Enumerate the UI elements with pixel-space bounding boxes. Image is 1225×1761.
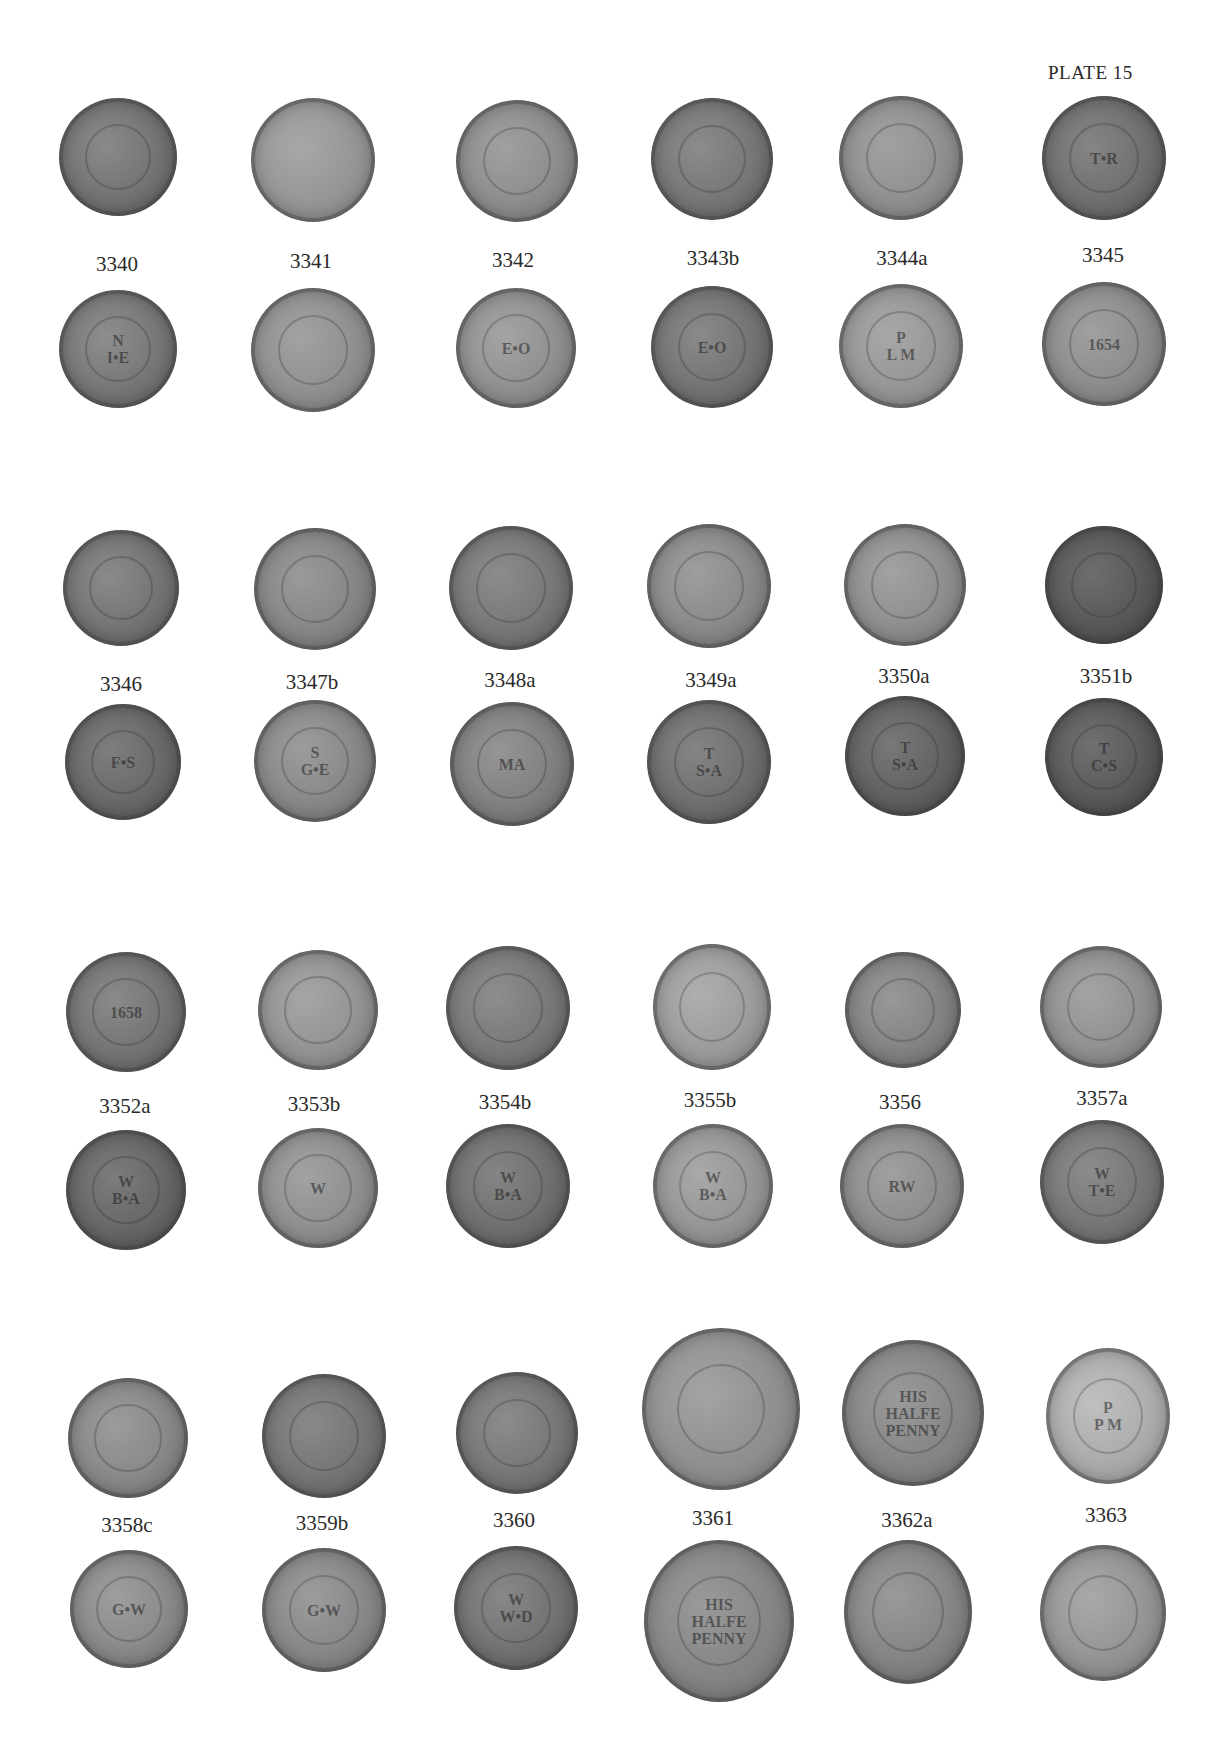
- coin-3354b-obverse: [446, 946, 570, 1070]
- coin-3349a-obverse: [647, 524, 771, 648]
- coin-3341-obverse: [251, 98, 375, 222]
- coin-3359b-obverse: [262, 1374, 386, 1498]
- coin-3352a-reverse: W B•A: [66, 1130, 186, 1250]
- coin-3355b-obverse: [653, 944, 771, 1070]
- catalog-number: 3355b: [684, 1088, 737, 1113]
- catalog-number: 3351b: [1080, 664, 1133, 689]
- coin-3348a-reverse: MA: [450, 702, 574, 826]
- catalog-number: 3358c: [101, 1513, 152, 1538]
- coin-3341-reverse: [251, 288, 375, 412]
- catalog-number: 3356: [879, 1090, 921, 1115]
- catalog-number: 3348a: [484, 668, 535, 693]
- plate-title: PLATE 15: [1048, 62, 1133, 84]
- catalog-number: 3353b: [288, 1092, 341, 1117]
- coin-3350a-obverse: [844, 524, 966, 646]
- coin-3351b-reverse: T C•S: [1045, 698, 1163, 816]
- coin-3345-reverse: 1654: [1042, 282, 1166, 406]
- coin-3361-obverse: [642, 1328, 800, 1490]
- catalog-number: 3347b: [286, 670, 339, 695]
- catalog-number: 3362a: [881, 1508, 932, 1533]
- coin-3344a-reverse: P L M: [839, 284, 963, 408]
- coin-3358c-reverse: G•W: [70, 1550, 188, 1668]
- coin-3351b-obverse: [1045, 526, 1163, 644]
- coin-3358c-obverse: [68, 1378, 188, 1498]
- coin-3347b-reverse: S G•E: [254, 700, 376, 822]
- coin-3346-reverse: F•S: [65, 704, 181, 820]
- coin-3363-obverse: P P M: [1046, 1348, 1170, 1484]
- coin-3354b-reverse: W B•A: [446, 1124, 570, 1248]
- catalog-number: 3343b: [687, 246, 740, 271]
- coin-3349a-reverse: T S•A: [647, 700, 771, 824]
- coin-3356-obverse: [845, 952, 961, 1068]
- catalog-number: 3361: [692, 1506, 734, 1531]
- coin-3356-reverse: RW: [840, 1124, 964, 1248]
- catalog-number: 3349a: [685, 668, 736, 693]
- catalog-number: 3360: [493, 1508, 535, 1533]
- coin-3340-obverse: [59, 98, 177, 216]
- coin-3343b-reverse: E•O: [651, 286, 773, 408]
- coin-3360-obverse: [456, 1372, 578, 1494]
- catalog-number: 3345: [1082, 243, 1124, 268]
- coin-3343b-obverse: [651, 98, 773, 220]
- catalog-number: 3340: [96, 252, 138, 277]
- coin-3345-obverse: T•R: [1042, 96, 1166, 220]
- coin-3348a-obverse: [449, 526, 573, 650]
- coin-3342-obverse: [456, 100, 578, 222]
- catalog-number: 3363: [1085, 1503, 1127, 1528]
- coin-3360-reverse: W W•D: [454, 1546, 578, 1670]
- coin-3361-reverse: HIS HALFE PENNY: [644, 1540, 794, 1702]
- catalog-number: 3354b: [479, 1090, 532, 1115]
- coin-3347b-obverse: [254, 528, 376, 650]
- catalog-number: 3359b: [296, 1511, 349, 1536]
- coin-3362a-obverse: HIS HALFE PENNY: [842, 1340, 984, 1486]
- catalog-number: 3352a: [99, 1094, 150, 1119]
- coin-3353b-reverse: W: [258, 1128, 378, 1248]
- catalog-number: 3357a: [1076, 1086, 1127, 1111]
- coin-3363-reverse: [1040, 1545, 1166, 1681]
- coin-3357a-obverse: [1040, 946, 1162, 1068]
- coin-3342-reverse: E•O: [456, 288, 576, 408]
- coin-3357a-reverse: W T•E: [1040, 1120, 1164, 1244]
- coin-3362a-reverse: [844, 1540, 972, 1684]
- coin-3353b-obverse: [258, 950, 378, 1070]
- catalog-number: 3341: [290, 249, 332, 274]
- coin-3350a-reverse: T S•A: [845, 696, 965, 816]
- coin-3359b-reverse: G•W: [262, 1548, 386, 1672]
- catalog-number: 3346: [100, 672, 142, 697]
- coin-3352a-obverse: 1658: [66, 952, 186, 1072]
- catalog-number: 3342: [492, 248, 534, 273]
- catalog-number: 3344a: [876, 246, 927, 271]
- catalog-number: 3350a: [878, 664, 929, 689]
- coin-3340-reverse: N I•E: [59, 290, 177, 408]
- coin-3344a-obverse: [839, 96, 963, 220]
- coin-3355b-reverse: W B•A: [653, 1124, 773, 1248]
- coin-3346-obverse: [63, 530, 179, 646]
